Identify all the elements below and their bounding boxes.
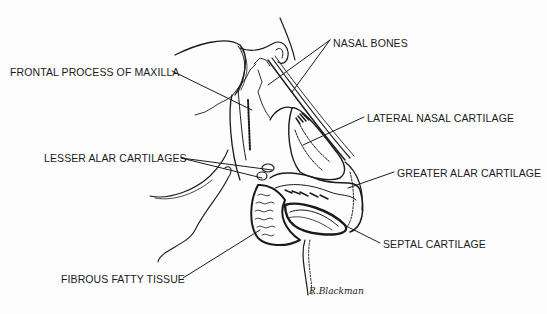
label-fibrous-fatty-tissue: FIBROUS FATTY TISSUE: [61, 273, 185, 285]
artist-signature: R.Blackman: [309, 286, 364, 296]
label-lesser-alar-cartilages: LESSER ALAR CARTILAGES: [44, 152, 187, 164]
label-greater-alar-cartilage: GREATER ALAR CARTILAGE: [397, 167, 541, 179]
label-nasal-bones: NASAL BONES: [333, 37, 408, 49]
label-lateral-nasal-cartilage: LATERAL NASAL CARTILAGE: [367, 112, 514, 124]
nose-anatomy-diagram: NASAL BONES FRONTAL PROCESS OF MAXILLA L…: [0, 0, 547, 314]
label-septal-cartilage: SEPTAL CARTILAGE: [383, 238, 486, 250]
label-frontal-process-of-maxilla: FRONTAL PROCESS OF MAXILLA: [10, 66, 179, 78]
